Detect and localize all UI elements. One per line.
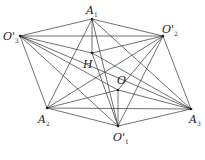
edge-O2p-A3 — [163, 36, 191, 109]
label-O1p: O'1 — [113, 131, 129, 145]
label-A3: A3 — [188, 113, 201, 127]
point-A3 — [190, 108, 193, 111]
edge-A2-O1p — [47, 108, 118, 126]
edge-H-O1p — [92, 53, 118, 126]
point-O3p — [19, 35, 22, 38]
label-O2p: O'2 — [162, 23, 178, 37]
edge-O2p-H — [92, 36, 163, 53]
edge-A1-O3p — [20, 19, 92, 36]
edge-A1-O2p — [92, 19, 163, 36]
point-H — [91, 52, 94, 55]
edge-O3p-O — [20, 36, 118, 90]
edge-O3p-A2 — [20, 36, 47, 108]
label-O3p: O'3 — [3, 30, 19, 44]
edge-O3p-A3 — [20, 36, 191, 109]
edge-A2-O — [47, 90, 118, 108]
point-O1p — [117, 125, 120, 128]
label-O: O — [117, 74, 126, 87]
point-A1 — [91, 18, 94, 21]
geometry-diagram: A1O'3O'2HOA2A3O'1 — [0, 0, 205, 160]
edge-O3p-O1p — [20, 36, 118, 126]
edge-A2-A3 — [47, 108, 191, 109]
label-A2: A2 — [37, 113, 50, 127]
point-A2 — [46, 107, 49, 110]
vertex-labels: A1O'3O'2HOA2A3O'1 — [3, 4, 201, 145]
label-A1: A1 — [85, 4, 98, 18]
point-O — [117, 89, 120, 92]
label-H: H — [82, 58, 93, 71]
edge-O3p-H — [20, 36, 92, 53]
edge-A3-O1p — [118, 109, 191, 126]
